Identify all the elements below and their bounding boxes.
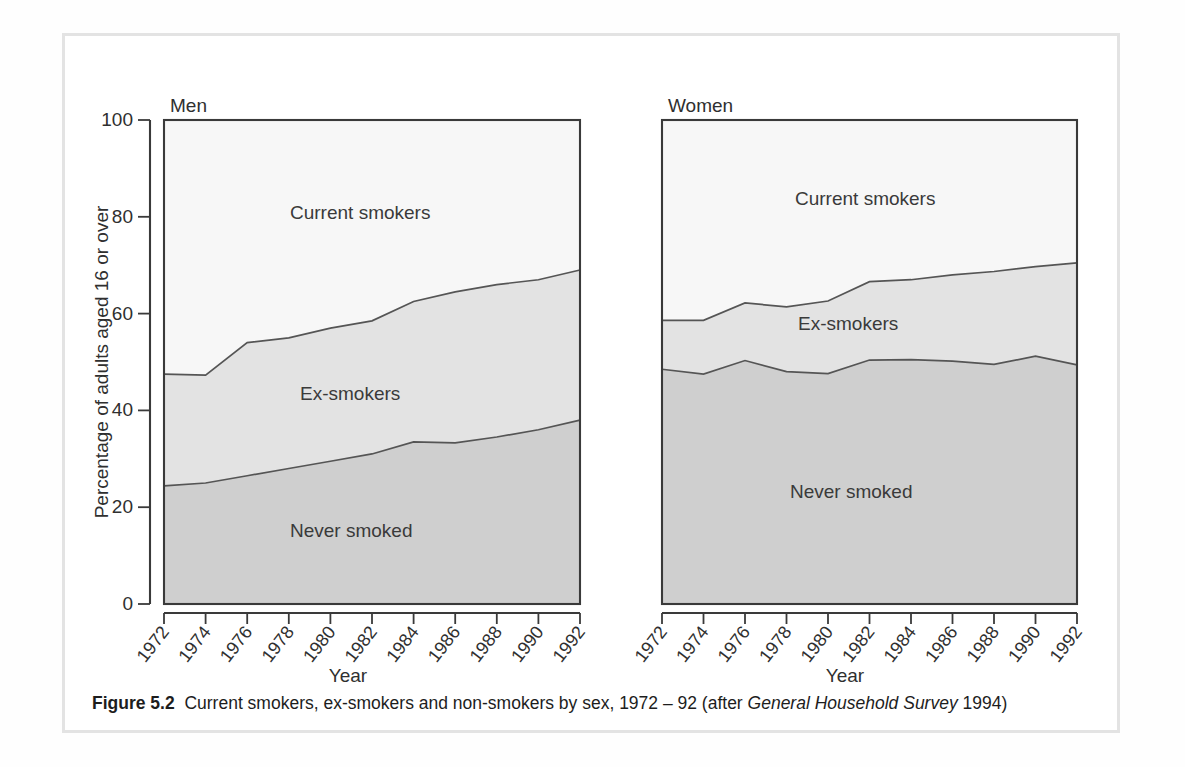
men-label-current-smokers: Current smokers bbox=[290, 202, 430, 223]
men-x-tick-label: 1984 bbox=[382, 622, 422, 666]
caption-figure-number: Figure 5.2 bbox=[92, 693, 175, 713]
men-y-tick-label: 0 bbox=[122, 593, 133, 614]
men-x-tick-label-group: 1972197419761978198019821984198619881990… bbox=[133, 622, 589, 666]
men-x-tick-group bbox=[164, 613, 580, 624]
caption-italic-source: General Household Survey bbox=[748, 693, 958, 713]
women-x-tick-label: 1978 bbox=[755, 622, 795, 666]
figure-caption: Figure 5.2 Current smokers, ex-smokers a… bbox=[92, 690, 1092, 716]
figure-page: Men Current smokers Ex-smokers Never smo… bbox=[0, 0, 1185, 767]
women-x-tick-label: 1976 bbox=[714, 622, 754, 666]
men-x-tick-label: 1976 bbox=[216, 622, 256, 666]
women-x-tick-label: 1984 bbox=[880, 622, 920, 666]
men-y-tick-label: 80 bbox=[112, 206, 133, 227]
caption-text-part2: 1994) bbox=[958, 693, 1008, 713]
women-label-ex-smokers: Ex-smokers bbox=[798, 313, 898, 334]
men-y-tick-group bbox=[138, 120, 150, 604]
men-label-never-smoked: Never smoked bbox=[290, 520, 413, 541]
caption-text-part1: Current smokers, ex-smokers and non-smok… bbox=[184, 693, 747, 713]
women-x-axis-title: Year bbox=[826, 665, 865, 686]
men-x-tick-label: 1988 bbox=[466, 622, 506, 666]
women-x-tick-label: 1982 bbox=[838, 622, 878, 666]
women-label-current-smokers: Current smokers bbox=[795, 188, 935, 209]
women-x-tick-label-group: 1972197419761978198019821984198619881990… bbox=[631, 622, 1086, 666]
men-x-tick-label: 1992 bbox=[549, 622, 589, 666]
women-x-tick-label: 1980 bbox=[797, 622, 837, 666]
men-x-tick-label: 1986 bbox=[424, 622, 464, 666]
panel-women: Women Current smokers Ex-smokers Never s… bbox=[631, 95, 1086, 686]
y-axis-title: Percentage of adults aged 16 or over bbox=[91, 205, 112, 518]
women-x-tick-label: 1972 bbox=[631, 622, 671, 666]
stacked-area-chart-svg: Men Current smokers Ex-smokers Never smo… bbox=[0, 0, 1185, 767]
women-label-never-smoked: Never smoked bbox=[790, 481, 913, 502]
women-x-tick-label: 1992 bbox=[1046, 622, 1086, 666]
men-y-tick-label: 100 bbox=[101, 109, 133, 130]
women-panel-title: Women bbox=[668, 95, 733, 116]
women-x-tick-label: 1988 bbox=[963, 622, 1003, 666]
men-panel-title: Men bbox=[170, 95, 207, 116]
men-x-tick-label: 1972 bbox=[133, 622, 173, 666]
men-x-tick-label: 1974 bbox=[174, 622, 214, 666]
men-x-tick-label: 1990 bbox=[507, 622, 547, 666]
men-y-tick-label: 20 bbox=[112, 496, 133, 517]
women-x-tick-group bbox=[662, 613, 1077, 624]
caption-spacer bbox=[175, 693, 185, 713]
chart-figure: Men Current smokers Ex-smokers Never smo… bbox=[0, 0, 1185, 767]
men-x-tick-label: 1978 bbox=[258, 622, 298, 666]
men-label-ex-smokers: Ex-smokers bbox=[300, 383, 400, 404]
panel-men: Men Current smokers Ex-smokers Never smo… bbox=[101, 95, 589, 686]
women-x-tick-label: 1986 bbox=[921, 622, 961, 666]
women-x-tick-label: 1990 bbox=[1004, 622, 1044, 666]
men-y-tick-label: 60 bbox=[112, 303, 133, 324]
men-x-tick-label: 1980 bbox=[299, 622, 339, 666]
men-x-tick-label: 1982 bbox=[341, 622, 381, 666]
men-x-axis-title: Year bbox=[329, 665, 368, 686]
men-y-tick-label: 40 bbox=[112, 399, 133, 420]
women-x-tick-label: 1974 bbox=[672, 622, 712, 666]
